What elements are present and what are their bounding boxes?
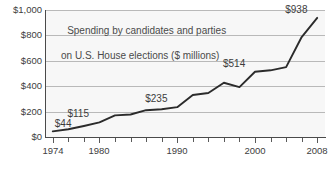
data-point-label: $938 — [285, 4, 307, 15]
data-point-label: $115 — [67, 108, 89, 119]
series-line-path — [53, 18, 317, 132]
series-line-chart — [0, 0, 335, 170]
data-point-label: $514 — [223, 58, 245, 69]
data-point-label: $235 — [145, 93, 167, 104]
data-point-label: $44 — [55, 118, 72, 129]
chart-figure: $0$200$400$600$800$1,000 197419801990200… — [0, 0, 335, 170]
